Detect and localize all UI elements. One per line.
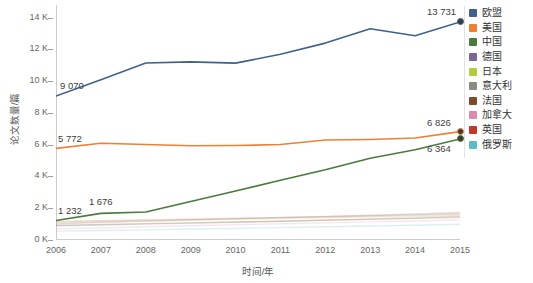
value-label: 1 676 bbox=[89, 196, 113, 207]
legend-label: 英国 bbox=[482, 125, 502, 135]
legend-color-swatch bbox=[469, 24, 477, 32]
legend-label: 意大利 bbox=[482, 81, 512, 91]
legend-item[interactable]: 日本 bbox=[469, 64, 533, 79]
legend-color-swatch bbox=[469, 111, 477, 119]
series-line bbox=[56, 22, 460, 96]
legend-color-swatch bbox=[469, 141, 477, 149]
legend-item[interactable]: 俄罗斯 bbox=[469, 137, 533, 152]
x-tick-label: 2006 bbox=[33, 245, 79, 255]
series-line bbox=[56, 132, 460, 149]
y-tick-label: 14 K bbox=[14, 13, 48, 22]
x-tick-label: 2012 bbox=[302, 245, 348, 255]
legend-item[interactable]: 意大利 bbox=[469, 79, 533, 94]
x-tick-label: 2011 bbox=[257, 245, 303, 255]
x-tick-label: 2008 bbox=[123, 245, 169, 255]
y-tick-label: 8 K bbox=[14, 108, 48, 117]
y-tick-label: 2 K bbox=[14, 203, 48, 212]
legend-label: 欧盟 bbox=[482, 8, 502, 18]
value-label: 13 731 bbox=[427, 6, 456, 17]
value-label: 6 364 bbox=[427, 143, 451, 154]
legend-item[interactable]: 中国 bbox=[469, 35, 533, 50]
y-tick-mark bbox=[48, 208, 53, 209]
y-tick-mark bbox=[48, 113, 53, 114]
legend-label: 俄罗斯 bbox=[482, 140, 512, 150]
x-tick-label: 2015 bbox=[437, 245, 483, 255]
legend-label: 法国 bbox=[482, 96, 502, 106]
y-tick-mark bbox=[48, 176, 53, 177]
legend-color-swatch bbox=[469, 82, 477, 90]
legend-color-swatch bbox=[469, 53, 477, 61]
legend-color-swatch bbox=[469, 126, 477, 134]
y-tick-label: 12 K bbox=[14, 44, 48, 53]
legend-color-swatch bbox=[469, 38, 477, 46]
y-tick-label: 10 K bbox=[14, 76, 48, 85]
value-label: 1 232 bbox=[58, 205, 82, 216]
y-tick-mark bbox=[48, 240, 53, 241]
y-tick-label: 6 K bbox=[14, 140, 48, 149]
x-tick-label: 2010 bbox=[213, 245, 259, 255]
legend-color-swatch bbox=[469, 68, 477, 76]
value-label: 6 826 bbox=[427, 117, 451, 128]
legend-label: 日本 bbox=[482, 67, 502, 77]
x-tick-label: 2014 bbox=[392, 245, 438, 255]
legend-label: 德国 bbox=[482, 52, 502, 62]
y-tick-label: 0 K bbox=[14, 235, 48, 244]
y-tick-mark bbox=[48, 145, 53, 146]
y-tick-mark bbox=[48, 18, 53, 19]
legend-item[interactable]: 欧盟 bbox=[469, 6, 533, 21]
x-tick-label: 2013 bbox=[347, 245, 393, 255]
data-point-marker bbox=[457, 135, 464, 142]
legend: 欧盟美国中国德国日本意大利法国加拿大英国俄罗斯 bbox=[464, 6, 533, 158]
y-tick-mark bbox=[48, 81, 53, 82]
line-chart: 论文数量/篇 0 K2 K4 K6 K8 K10 K12 K14 K 9 070… bbox=[0, 0, 533, 283]
legend-item[interactable]: 美国 bbox=[469, 21, 533, 36]
legend-label: 美国 bbox=[482, 23, 502, 33]
data-point-marker bbox=[457, 128, 464, 135]
legend-color-swatch bbox=[469, 9, 477, 17]
value-label: 5 772 bbox=[58, 133, 82, 144]
legend-item[interactable]: 法国 bbox=[469, 94, 533, 109]
legend-item[interactable]: 英国 bbox=[469, 123, 533, 138]
y-tick-mark bbox=[48, 49, 53, 50]
x-axis-title: 时间/年 bbox=[56, 264, 460, 278]
legend-label: 加拿大 bbox=[482, 110, 512, 120]
legend-item[interactable]: 德国 bbox=[469, 50, 533, 65]
y-tick-label: 4 K bbox=[14, 171, 48, 180]
legend-item[interactable]: 加拿大 bbox=[469, 108, 533, 123]
x-tick-label: 2009 bbox=[168, 245, 214, 255]
value-label: 9 070 bbox=[60, 80, 84, 91]
legend-label: 中国 bbox=[482, 37, 502, 47]
series-line bbox=[56, 139, 460, 220]
x-tick-label: 2007 bbox=[78, 245, 124, 255]
legend-color-swatch bbox=[469, 97, 477, 105]
plot-lines bbox=[56, 5, 460, 240]
